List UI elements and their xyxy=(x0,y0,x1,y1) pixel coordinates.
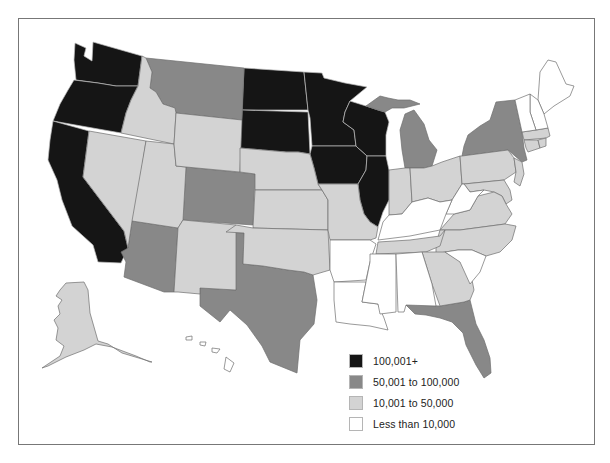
state-maine xyxy=(538,60,574,114)
state-connecticut xyxy=(524,140,540,152)
legend-swatch-medium-gray xyxy=(349,375,363,389)
legend-item-100001-plus: 100,001+ xyxy=(349,350,459,371)
legend-label: 100,001+ xyxy=(373,355,418,367)
us-choropleth-map xyxy=(0,0,610,463)
state-colorado xyxy=(183,167,255,225)
state-michigan xyxy=(400,110,437,168)
legend-label: Less than 10,000 xyxy=(373,418,455,430)
state-south-dakota xyxy=(240,110,310,154)
legend-item-10001-50000: 10,001 to 50,000 xyxy=(349,392,459,413)
state-hawaii-kauai xyxy=(186,336,192,340)
state-kansas xyxy=(253,190,328,230)
legend-label: 10,001 to 50,000 xyxy=(373,397,453,409)
legend-swatch-white xyxy=(349,417,363,431)
state-hawaii-oahu xyxy=(200,342,206,346)
state-iowa xyxy=(310,146,367,184)
state-hawaii-big xyxy=(224,357,234,372)
legend-label: 50,001 to 100,000 xyxy=(373,376,459,388)
legend-swatch-light-gray xyxy=(349,396,363,410)
state-hawaii-maui xyxy=(212,348,220,353)
state-alaska xyxy=(42,282,152,368)
legend: 100,001+ 50,001 to 100,000 10,001 to 50,… xyxy=(349,350,459,434)
state-wyoming xyxy=(174,113,242,172)
state-pennsylvania xyxy=(460,150,516,184)
legend-item-50001-100000: 50,001 to 100,000 xyxy=(349,371,459,392)
legend-swatch-black xyxy=(349,354,363,368)
legend-item-less-than-10000: Less than 10,000 xyxy=(349,413,459,434)
state-north-dakota xyxy=(242,68,308,110)
state-washington xyxy=(74,42,142,86)
